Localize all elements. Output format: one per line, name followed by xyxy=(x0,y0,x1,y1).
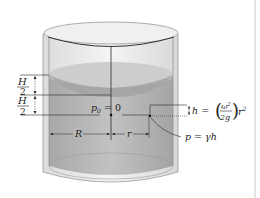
label-r-squared: r2 xyxy=(238,105,247,117)
label-H-bottom: H xyxy=(17,95,27,106)
label-p0: p0 = 0 xyxy=(91,102,121,114)
vertex-point xyxy=(110,114,113,117)
arrow-head xyxy=(34,96,37,99)
label-2g: 2g xyxy=(219,113,230,122)
label-h-eq: h = xyxy=(192,105,209,116)
cylinder-top-rim xyxy=(44,22,178,44)
label-R: R xyxy=(74,128,82,139)
arrow-head xyxy=(34,91,37,94)
label-H-top: H xyxy=(17,76,27,87)
arrow-head xyxy=(34,76,37,79)
arrow-head xyxy=(188,113,190,116)
arrow-head xyxy=(34,111,37,114)
label-omega: ω2 xyxy=(221,101,231,111)
rotating-cylinder-diagram: H 2 H 2 p0 = 0 h = ( ω2 2g ) r2 p = γh R… xyxy=(0,0,260,198)
label-pressure: p = γh xyxy=(185,131,217,142)
label-2-bottom: 2 xyxy=(20,107,26,117)
arrow-head xyxy=(188,106,190,109)
